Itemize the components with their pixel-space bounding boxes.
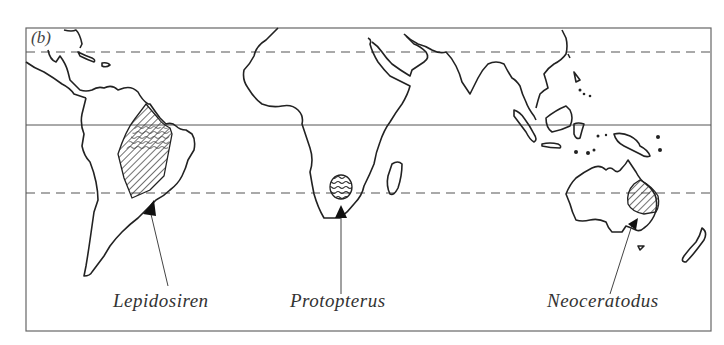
mexico-coast bbox=[26, 62, 86, 98]
protopterus-range bbox=[330, 175, 352, 199]
lepidosiren-pointer bbox=[143, 200, 168, 286]
arabia-coast bbox=[372, 36, 428, 76]
label-protopterus: Protopterus bbox=[290, 290, 386, 312]
new-zealand bbox=[682, 228, 705, 262]
tasmania bbox=[638, 246, 644, 250]
central-america-coast bbox=[48, 30, 148, 104]
asia-coast bbox=[404, 30, 567, 120]
label-neoceratodus: Neoceratodus bbox=[547, 290, 659, 312]
java bbox=[542, 143, 561, 148]
philippines bbox=[574, 72, 580, 82]
neoceratodus-range bbox=[628, 180, 659, 214]
borneo bbox=[546, 106, 572, 132]
panel-label: (b) bbox=[31, 28, 51, 48]
lepidosiren-range bbox=[118, 104, 172, 198]
label-lepidosiren: Lepidosiren bbox=[113, 290, 209, 312]
caribbean-islands bbox=[78, 52, 110, 67]
madagascar bbox=[387, 162, 402, 194]
island-dots bbox=[574, 89, 662, 156]
new-guinea bbox=[614, 133, 650, 156]
taiwan bbox=[568, 54, 570, 58]
